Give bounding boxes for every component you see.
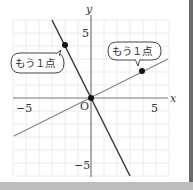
frame-right-border: [189, 0, 193, 190]
point-right: [139, 68, 145, 74]
y-tick-neg5: −5: [74, 159, 90, 172]
x-tick-5: 5: [151, 102, 158, 115]
frame-bottom-border: [0, 182, 193, 190]
callout-left: もう１点: [11, 50, 64, 73]
x-axis-label: x: [170, 92, 177, 105]
y-tick-5: 5: [82, 27, 89, 40]
callout-left-text: もう１点: [15, 57, 55, 69]
point-left: [62, 42, 68, 48]
callout-right-text: もう１点: [112, 45, 152, 57]
x-tick-neg5: −5: [16, 102, 32, 115]
callout-right: もう１点: [108, 42, 161, 66]
point-origin: [88, 95, 94, 101]
coordinate-plane: x y O −5 5 5 −5 もう１点 もう１点: [0, 0, 193, 190]
y-axis-label: y: [85, 3, 93, 16]
